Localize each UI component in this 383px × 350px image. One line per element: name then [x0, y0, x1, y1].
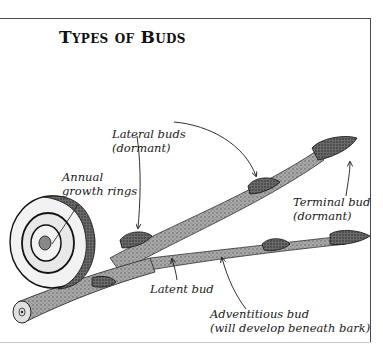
terminal-bud-label-line1: Terminal bud: [293, 195, 370, 209]
adventitious-bud-label-line1: Adventitious bud: [210, 307, 370, 321]
adventitious-bud-label: Adventitious bud (will develop beneath b…: [210, 307, 370, 335]
terminal-bud-label-line2: (dormant): [293, 209, 370, 223]
lateral-bud-upper: [248, 178, 280, 194]
lower-branch-tip-bud: [330, 230, 370, 244]
latent-bud-label-line1: Latent bud: [150, 282, 214, 296]
annual-rings-label-line2: growth rings: [62, 184, 137, 198]
annual-rings-label: Annual growth rings: [62, 170, 137, 198]
terminal-bud: [312, 136, 357, 160]
terminal-bud-label: Terminal bud (dormant): [293, 195, 370, 223]
lateral-buds-label: Lateral buds (dormant): [112, 127, 186, 155]
adventitious-bud-label-line2: (will develop beneath bark): [210, 321, 370, 335]
twig-illustration: [0, 0, 383, 350]
lateral-buds-label-line1: Lateral buds: [112, 127, 186, 141]
lateral-buds-label-line2: (dormant): [112, 141, 186, 155]
annual-rings-label-line1: Annual: [62, 170, 137, 184]
terminal-bud-leader: [346, 162, 350, 196]
adventitious-bud-leader: [222, 258, 246, 309]
latent-bud-label: Latent bud: [150, 282, 214, 296]
lateral-buds-leader-upper: [174, 122, 256, 176]
growth-rings-section: [10, 196, 95, 289]
